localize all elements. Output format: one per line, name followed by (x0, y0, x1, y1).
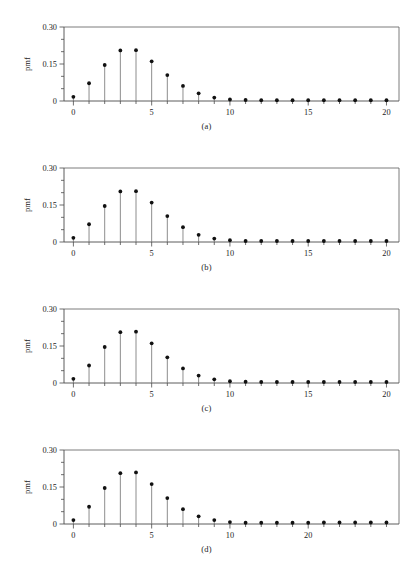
data-point (259, 380, 263, 384)
data-point (291, 521, 295, 525)
data-point (228, 520, 232, 524)
data-point (197, 91, 201, 95)
data-point (103, 486, 107, 490)
data-point (134, 48, 138, 52)
data-point (385, 521, 389, 525)
x-tick-label: 15 (304, 249, 312, 258)
data-point (338, 239, 342, 243)
y-axis-title: pmf (22, 57, 32, 71)
data-point (322, 380, 326, 384)
x-tick-label: 0 (71, 108, 75, 117)
y-tick-label: 0.15 (42, 483, 57, 492)
panel-caption-c: (c) (0, 403, 413, 413)
x-tick-label: 15 (304, 390, 312, 399)
stem-chart-b: 00.150.3005101520pmf (0, 141, 413, 261)
data-point (322, 521, 326, 525)
data-point (338, 521, 342, 525)
data-point (369, 98, 373, 102)
data-point (228, 379, 232, 383)
x-tick-label: 20 (382, 249, 390, 258)
data-point (103, 204, 107, 208)
data-point (353, 380, 357, 384)
data-point (244, 380, 248, 384)
data-point (244, 239, 248, 243)
data-point (150, 201, 154, 205)
data-point (212, 377, 216, 381)
x-tick-label: 10 (226, 249, 234, 258)
x-tick-label: 5 (150, 531, 154, 540)
data-point (244, 98, 248, 102)
data-point (338, 98, 342, 102)
data-point (306, 521, 310, 525)
data-point (385, 98, 389, 102)
data-point (275, 380, 279, 384)
stem-chart-c: 00.150.3005101520pmf (0, 282, 413, 402)
data-point (181, 507, 185, 511)
data-point (150, 341, 154, 345)
data-point (134, 471, 138, 475)
y-tick-label: 0 (53, 97, 57, 106)
x-tick-label: 20 (382, 390, 390, 399)
x-tick-label: 5 (150, 108, 154, 117)
plot-area-b: 00.150.3005101520pmf (0, 141, 413, 261)
data-point (165, 214, 169, 218)
y-axis-title: pmf (22, 480, 32, 494)
y-tick-label: 0 (53, 520, 57, 529)
data-point (118, 49, 122, 53)
data-point (87, 81, 91, 85)
stem-chart-a: 00.150.3005101520pmf (0, 0, 413, 120)
data-point (87, 364, 91, 368)
y-tick-label: 0.15 (42, 342, 57, 351)
x-tick-label: 5 (150, 390, 154, 399)
data-point (150, 482, 154, 486)
panel-caption-b: (b) (0, 262, 413, 272)
data-point (259, 98, 263, 102)
data-point (353, 98, 357, 102)
data-point (103, 63, 107, 67)
x-tick-label: 10 (226, 108, 234, 117)
data-point (212, 96, 216, 100)
plot-area-c: 00.150.3005101520pmf (0, 282, 413, 402)
panel-caption-a: (a) (0, 121, 413, 131)
y-tick-label: 0.15 (42, 60, 57, 69)
y-tick-label: 0.30 (42, 305, 57, 314)
data-point (181, 84, 185, 88)
y-tick-label: 0.30 (42, 164, 57, 173)
data-point (103, 345, 107, 349)
data-point (291, 98, 295, 102)
y-axis-title: pmf (22, 198, 32, 212)
x-tick-label: 20 (382, 108, 390, 117)
data-point (291, 239, 295, 243)
data-point (369, 521, 373, 525)
data-point (228, 98, 232, 102)
data-point (87, 222, 91, 226)
x-tick-label: 5 (150, 249, 154, 258)
figure-multi-panel-pmf: 00.150.3005101520pmf (a) 00.150.30051015… (0, 0, 413, 564)
data-point (338, 380, 342, 384)
data-point (306, 380, 310, 384)
data-point (118, 330, 122, 334)
stem-chart-d: 00.150.30051020pmf (0, 423, 413, 543)
data-point (353, 521, 357, 525)
y-tick-label: 0 (53, 379, 57, 388)
x-tick-label: 0 (71, 531, 75, 540)
data-point (118, 190, 122, 194)
data-point (212, 237, 216, 241)
data-point (181, 367, 185, 371)
data-point (87, 505, 91, 509)
x-tick-label: 20 (304, 531, 312, 540)
data-point (134, 189, 138, 193)
data-point (71, 95, 75, 99)
data-point (197, 233, 201, 237)
data-point (71, 377, 75, 381)
panel-c: 00.150.3005101520pmf (c) (0, 282, 413, 423)
y-axis-title: pmf (22, 339, 32, 353)
data-point (259, 239, 263, 243)
data-point (197, 374, 201, 378)
x-tick-label: 10 (226, 390, 234, 399)
data-point (322, 239, 326, 243)
data-point (197, 514, 201, 518)
x-tick-label: 15 (304, 108, 312, 117)
data-point (165, 355, 169, 359)
y-tick-label: 0.30 (42, 23, 57, 32)
